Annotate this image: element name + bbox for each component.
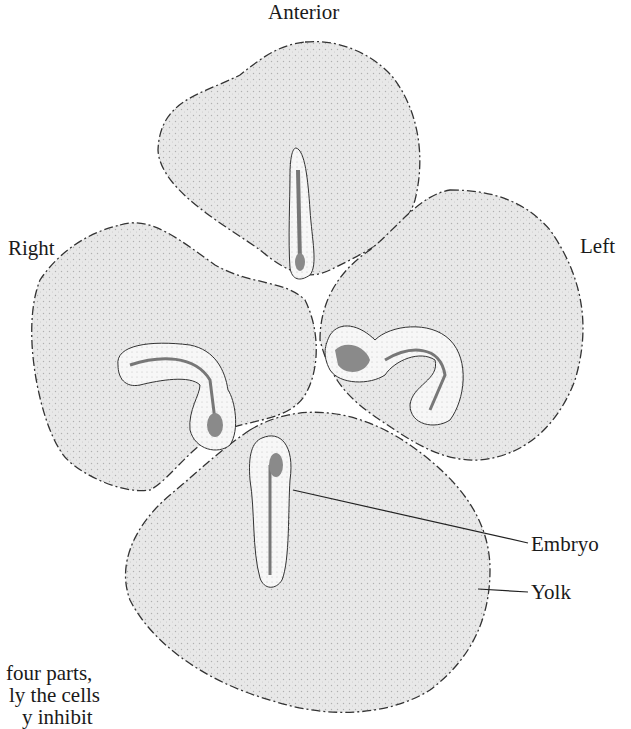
label-left: Left [580,234,615,259]
label-embryo: Embryo [531,532,599,557]
label-right: Right [8,236,55,261]
label-anterior: Anterior [268,0,339,25]
caption-line-1: four parts, [0,662,100,684]
caption-line-3: y inhibit [0,706,100,728]
label-yolk: Yolk [531,580,571,605]
caption-fragment: four parts, ly the cells y inhibit [0,662,100,728]
caption-line-2: ly the cells [0,684,100,706]
